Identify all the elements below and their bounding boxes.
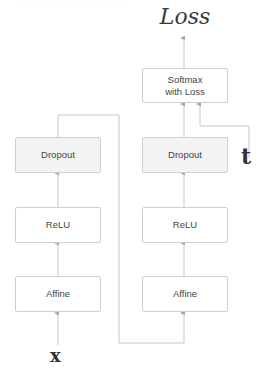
right-affine-layer: Affine [142,276,228,312]
left-relu-layer: ReLU [15,207,101,243]
right-dropout-layer: Dropout [142,137,228,173]
connection-wires [0,0,272,380]
right-relu-layer: ReLU [142,207,228,243]
input-label-x: x [50,345,61,366]
softmax-with-loss-layer: Softmax with Loss [142,68,228,103]
target-label-t: t [241,143,251,169]
left-affine-layer: Affine [15,276,101,312]
loss-label: Loss [150,4,220,29]
left-dropout-layer: Dropout [15,137,101,173]
